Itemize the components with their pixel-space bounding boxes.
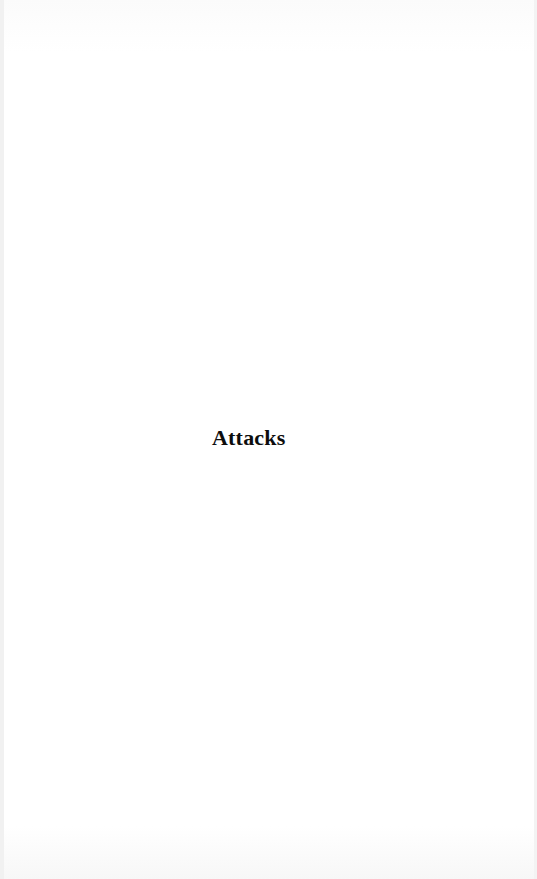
scan-edge-left [0, 0, 4, 879]
section-heading: Attacks [212, 425, 286, 451]
document-page: Attacks [0, 0, 537, 879]
